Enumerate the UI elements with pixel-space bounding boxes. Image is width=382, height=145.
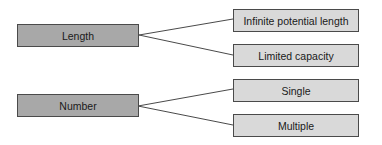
node-infinite-label: Infinite potential length bbox=[243, 15, 348, 27]
node-multiple-label: Multiple bbox=[278, 120, 314, 132]
node-multiple: Multiple bbox=[233, 114, 359, 137]
node-length: Length bbox=[17, 24, 139, 47]
node-number: Number bbox=[17, 94, 139, 117]
node-infinite-potential-length: Infinite potential length bbox=[233, 9, 359, 32]
edge-number-multiple bbox=[138, 106, 233, 125]
edge-number-single bbox=[138, 89, 233, 106]
node-single: Single bbox=[233, 79, 359, 102]
node-single-label: Single bbox=[281, 85, 310, 97]
edge-length-limited bbox=[139, 35, 233, 55]
node-length-label: Length bbox=[62, 30, 94, 42]
node-limited-capacity: Limited capacity bbox=[233, 44, 359, 67]
node-limited-label: Limited capacity bbox=[258, 50, 333, 62]
node-number-label: Number bbox=[59, 100, 96, 112]
edge-length-infinite bbox=[139, 19, 233, 35]
